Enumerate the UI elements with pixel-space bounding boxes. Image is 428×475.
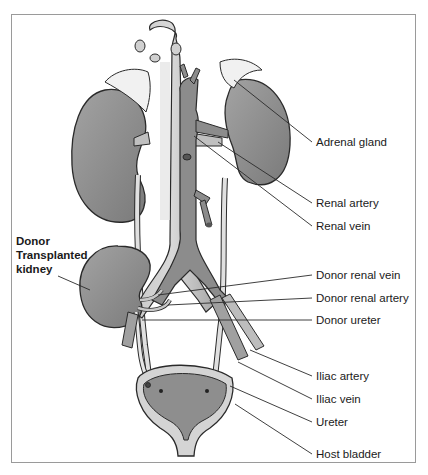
label-adrenal-gland: Adrenal gland — [316, 136, 387, 149]
label-ureter: Ureter — [316, 416, 348, 429]
label-donor-kidney-line1: Donor — [16, 234, 88, 248]
host-bladder — [136, 365, 233, 456]
label-donor-renal-artery: Donor renal artery — [316, 292, 409, 305]
label-iliac-vein: Iliac vein — [316, 393, 361, 406]
label-donor-kidney-line2: Transplanted — [16, 248, 88, 262]
label-donor-ureter: Donor ureter — [316, 314, 381, 327]
label-donor-kidney-line3: kidney — [16, 262, 88, 276]
label-renal-artery: Renal artery — [316, 197, 379, 210]
label-donor-kidney: Donor Transplanted kidney — [16, 234, 88, 276]
label-iliac-artery: Iliac artery — [316, 370, 369, 383]
label-donor-renal-vein: Donor renal vein — [316, 269, 400, 282]
label-renal-vein: Renal vein — [316, 220, 370, 233]
label-host-bladder: Host bladder — [316, 448, 381, 461]
